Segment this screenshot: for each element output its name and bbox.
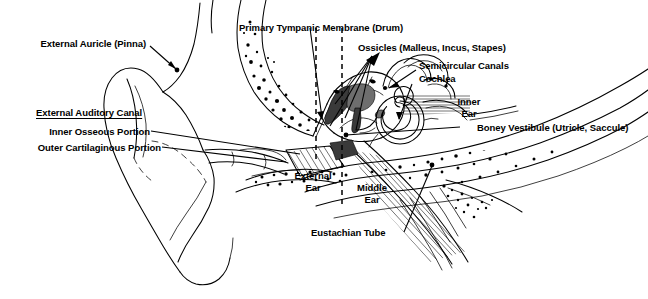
label-inner-ear-line2: Ear [446,108,492,119]
petrous-bone-lower [236,69,648,218]
external-auditory-canal [205,149,288,174]
label-boney-vestibule: Boney Vestibule (Utricle, Saccule) [477,122,628,133]
label-eustachian-tube: Eustachian Tube [311,227,386,238]
label-cochlea: Cochlea [419,73,456,84]
label-ossicles: Ossicles (Malleus, Incus, Stapes) [358,42,506,53]
label-inner-osseous-portion: Inner Osseous Portion [0,126,150,137]
temporal-bone-outline [211,0,324,136]
label-external-ear-line2: Ear [285,182,341,193]
label-semicircular-canals: Semicircular Canals [419,60,509,71]
bone-stipple-upper [243,21,311,137]
label-external-ear-line1: External [285,170,341,181]
label-middle-ear-line1: Middle [348,182,396,193]
label-middle-ear-line2: Ear [348,194,396,205]
ear-anatomy-diagram: External Auricle (Pinna) External Audito… [0,0,648,299]
label-external-auditory-canal: External Auditory Canal [36,107,142,118]
label-external-auricle: External Auricle (Pinna) [8,38,146,49]
label-outer-cartilaginous-portion: Outer Cartilaginous Portion [0,142,161,153]
label-primary-tympanic-membrane: Primary Tympanic Membrane (Drum) [239,22,403,33]
tube-stipple [443,185,493,219]
label-inner-ear-line1: Inner [446,96,492,107]
